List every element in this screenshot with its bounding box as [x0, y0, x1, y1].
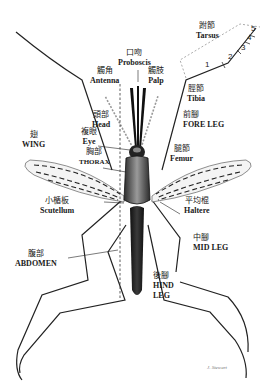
- label-proboscis: 口吻 Proboscis: [118, 48, 151, 68]
- label-tarsus: 跗節 Tarsus: [196, 21, 219, 41]
- artist-signature: J. Stewart: [207, 365, 227, 370]
- tarsal-segment-1: 1: [205, 60, 209, 69]
- tarsal-segment-4: 4: [247, 33, 251, 42]
- proboscis: [130, 86, 146, 148]
- tarsal-segment-3: 3: [241, 43, 245, 52]
- label-scutellum: 小楯板 Scutellum: [40, 196, 74, 216]
- label-haltere: 平均棍 Haltere: [184, 196, 210, 216]
- label-hind-leg: 後腳 HIND LEG: [153, 271, 174, 301]
- tarsal-segment-2: 2: [228, 52, 232, 61]
- label-abdomen: 腹部 ABDOMEN: [15, 249, 57, 269]
- thorax: [124, 156, 150, 204]
- label-antenna: 觸角 Antenna: [90, 66, 119, 86]
- tarsal-segment-5: 5: [251, 24, 255, 33]
- label-thorax: 胸部 THORAX: [79, 147, 110, 167]
- label-femur: 腿節 Femur: [170, 144, 193, 164]
- mosquito-diagram: 跗節 Tarsus 口吻 Proboscis 觸角 Antenna 觸肢 Pal…: [0, 0, 275, 392]
- label-mid-leg: 中腳 MID LEG: [193, 233, 228, 253]
- label-tibia: 脛節 Tibia: [187, 84, 205, 104]
- abdomen: [130, 206, 144, 295]
- label-palp: 觸肢 Palp: [148, 66, 164, 86]
- label-eye: 複眼 Eye: [81, 127, 97, 147]
- label-wing: 翅 WING: [22, 130, 45, 150]
- label-fore-leg: 前腳 FORE LEG: [183, 110, 224, 130]
